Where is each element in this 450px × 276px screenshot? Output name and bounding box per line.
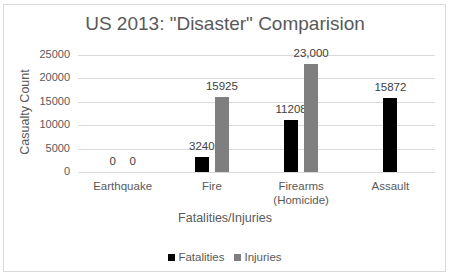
bar-fatalities <box>383 98 397 172</box>
gridline <box>78 55 435 56</box>
bar-fatalities <box>195 157 209 172</box>
gridline <box>78 102 435 103</box>
legend-label: Fatalities <box>178 251 224 263</box>
gridline <box>78 149 435 150</box>
bar-fatalities <box>284 120 298 172</box>
x-axis-label: Fatalities/Injuries <box>0 211 450 225</box>
data-label: 0 <box>108 155 158 167</box>
legend-item-injuries: Injuries <box>234 251 281 263</box>
data-label: 15872 <box>365 81 415 93</box>
legend-label: Injuries <box>244 251 281 263</box>
gridline <box>78 78 435 79</box>
y-tick-label: 5000 <box>30 142 70 154</box>
chart-title: US 2013: "Disaster" Comparision <box>0 13 450 35</box>
y-tick-label: 25000 <box>30 48 70 60</box>
legend: Fatalities Injuries <box>0 251 450 263</box>
y-tick-label: 20000 <box>30 71 70 83</box>
bar-injuries <box>215 97 229 172</box>
x-tick-label: Firearms(Homicide) <box>261 179 341 207</box>
data-label: 15925 <box>197 80 247 92</box>
legend-swatch-fatalities <box>168 254 175 261</box>
x-tick-label: Earthquake <box>83 179 163 193</box>
x-tick-label: Assault <box>350 179 430 193</box>
gridline <box>78 125 435 126</box>
y-tick-label: 0 <box>30 165 70 177</box>
bar-injuries <box>304 64 318 172</box>
data-label: 23,000 <box>286 47 336 59</box>
y-tick-label: 10000 <box>30 118 70 130</box>
gridline <box>78 172 435 173</box>
legend-swatch-injuries <box>234 254 241 261</box>
y-tick-label: 15000 <box>30 95 70 107</box>
legend-item-fatalities: Fatalities <box>168 251 224 263</box>
x-tick-label: Fire <box>172 179 252 193</box>
